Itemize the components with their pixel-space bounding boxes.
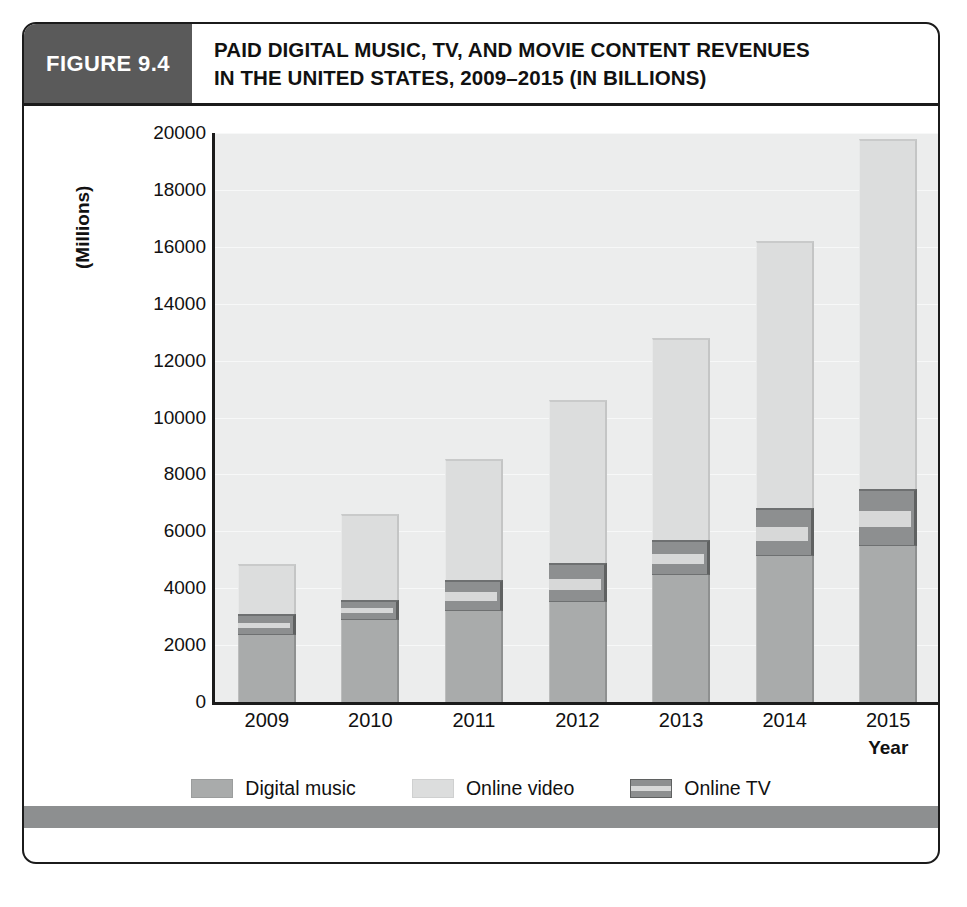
chart-body: (Millions) 02000400060008000100001200014…: [24, 109, 938, 844]
bar-segment-online-video[interactable]: [238, 564, 296, 614]
legend-label: Online TV: [684, 777, 770, 800]
legend-label: Digital music: [245, 777, 356, 800]
y-tick-label: 14000: [88, 293, 206, 315]
bar-segment-digital-music[interactable]: [238, 635, 296, 702]
y-tick-label: 4000: [88, 577, 206, 599]
y-tick-label: 0: [88, 691, 206, 713]
bar-segment-online-video[interactable]: [652, 338, 710, 540]
bar-segment-digital-music[interactable]: [549, 602, 607, 702]
bar-group[interactable]: [652, 338, 710, 702]
bar-segment-online-tv[interactable]: [859, 489, 917, 546]
bar-group[interactable]: [859, 139, 917, 702]
bar-segment-online-tv[interactable]: [445, 580, 503, 611]
y-tick-label: 10000: [88, 407, 206, 429]
bar-segment-digital-music[interactable]: [756, 556, 814, 702]
bar-group[interactable]: [238, 564, 296, 702]
bars-layer: [215, 133, 940, 702]
footer-rule: [24, 806, 938, 828]
legend-item[interactable]: Online TV: [630, 777, 770, 800]
bar-group[interactable]: [445, 459, 503, 702]
bar-segment-online-tv[interactable]: [341, 600, 399, 620]
y-tick-label: 2000: [88, 634, 206, 656]
figure-title: PAID DIGITAL MUSIC, TV, AND MOVIE CONTEN…: [192, 24, 938, 103]
bar-segment-digital-music[interactable]: [341, 620, 399, 703]
y-tick-label: 8000: [88, 463, 206, 485]
x-axis-ticks: 2009201020112012201320142015Year: [215, 709, 940, 769]
y-tick-label: 16000: [88, 236, 206, 258]
x-tick-label: 2014: [740, 709, 830, 732]
y-axis-ticks: 0200040006000800010000120001400016000180…: [76, 133, 206, 702]
bar-group[interactable]: [549, 400, 607, 702]
x-tick-label: 2012: [533, 709, 623, 732]
bar-segment-online-video[interactable]: [756, 241, 814, 508]
x-tick-label: 2011: [429, 709, 519, 732]
y-tick-label: 18000: [88, 179, 206, 201]
bar-group[interactable]: [756, 241, 814, 702]
x-tick-label: 2010: [325, 709, 415, 732]
bar-segment-digital-music[interactable]: [652, 575, 710, 702]
y-tick-label: 20000: [88, 122, 206, 144]
bar-segment-online-tv[interactable]: [756, 508, 814, 556]
legend-item[interactable]: Digital music: [191, 777, 356, 800]
x-tick-label: 2009: [222, 709, 312, 732]
bar-segment-online-video[interactable]: [445, 459, 503, 580]
legend-swatch-icon: [412, 779, 454, 798]
bar-segment-online-tv[interactable]: [652, 540, 710, 576]
legend-label: Online video: [466, 777, 574, 800]
chart-legend: Digital musicOnline videoOnline TV: [24, 777, 938, 800]
y-tick-label: 6000: [88, 520, 206, 542]
legend-item[interactable]: Online video: [412, 777, 574, 800]
bar-segment-online-video[interactable]: [341, 514, 399, 599]
x-tick-label: 2015: [843, 709, 933, 732]
bar-group[interactable]: [341, 514, 399, 702]
y-tick-label: 12000: [88, 350, 206, 372]
figure-title-line-2: IN THE UNITED STATES, 2009–2015 (IN BILL…: [214, 64, 810, 91]
figure-frame: FIGURE 9.4 PAID DIGITAL MUSIC, TV, AND M…: [22, 22, 940, 864]
bar-segment-digital-music[interactable]: [859, 546, 917, 702]
figure-header: FIGURE 9.4 PAID DIGITAL MUSIC, TV, AND M…: [24, 24, 938, 106]
bar-segment-online-tv[interactable]: [238, 614, 296, 635]
x-axis-title: Year: [843, 737, 933, 759]
figure-number-badge: FIGURE 9.4: [24, 24, 192, 103]
x-tick-label: 2013: [636, 709, 726, 732]
bar-segment-online-video[interactable]: [859, 139, 917, 489]
bar-segment-online-tv[interactable]: [549, 563, 607, 603]
legend-swatch-icon: [630, 779, 672, 798]
bar-segment-online-video[interactable]: [549, 400, 607, 562]
bar-segment-digital-music[interactable]: [445, 611, 503, 702]
legend-swatch-icon: [191, 779, 233, 798]
figure-title-line-1: PAID DIGITAL MUSIC, TV, AND MOVIE CONTEN…: [214, 36, 810, 63]
